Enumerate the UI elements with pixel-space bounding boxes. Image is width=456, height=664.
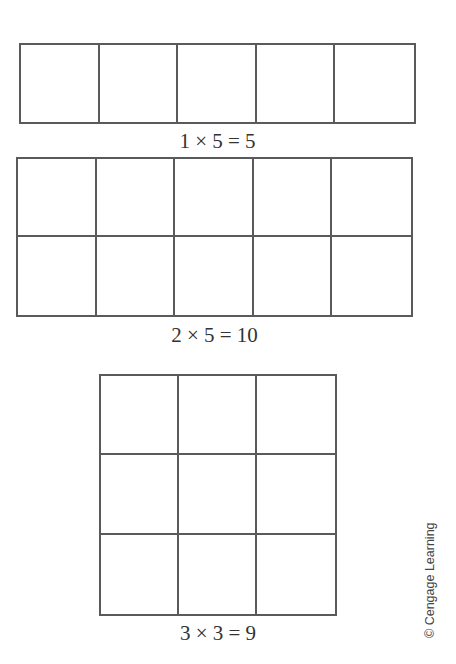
equation-label-1x5: 1 × 5 = 5	[19, 131, 416, 152]
grid-cell	[101, 455, 179, 534]
grid-cell	[21, 45, 100, 122]
grid-cell	[97, 237, 176, 315]
grid-cell	[100, 45, 179, 122]
equation-label-3x3: 3 × 3 = 9	[99, 623, 337, 644]
grid-cell	[254, 159, 333, 237]
grid-cell	[101, 535, 179, 614]
grid-cell	[18, 237, 97, 315]
grid-cell	[97, 159, 176, 237]
grid-cell	[178, 45, 257, 122]
grid-cell	[175, 237, 254, 315]
grid-cell	[101, 376, 179, 455]
grid-1x5	[19, 43, 416, 124]
grid-cell	[257, 455, 335, 534]
grid-cell	[179, 455, 257, 534]
grid-cell	[332, 237, 411, 315]
grid-cell	[18, 159, 97, 237]
grid-2x5	[16, 157, 413, 317]
grid-cell	[257, 376, 335, 455]
grid-cell	[332, 159, 411, 237]
grid-3x3	[99, 374, 337, 616]
grid-cell	[257, 45, 336, 122]
copyright-credit: © Cengage Learning	[423, 522, 437, 638]
grid-cell	[179, 535, 257, 614]
grid-cell	[257, 535, 335, 614]
grid-cell	[175, 159, 254, 237]
grid-cell	[335, 45, 414, 122]
equation-label-2x5: 2 × 5 = 10	[16, 325, 413, 346]
grid-cell	[254, 237, 333, 315]
grid-cell	[179, 376, 257, 455]
